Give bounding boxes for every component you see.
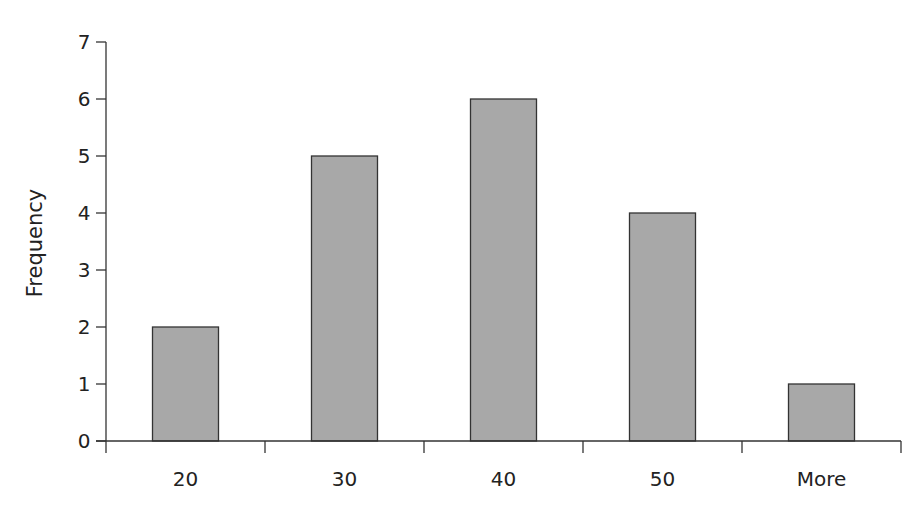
y-tick-label: 0 (78, 429, 91, 453)
bar-30 (312, 156, 378, 441)
x-axis: 20304050More (96, 441, 901, 491)
histogram-chart: 01234567 20304050More Frequency (0, 0, 923, 515)
y-tick-label: 1 (78, 372, 91, 396)
bar-more (789, 384, 855, 441)
y-tick-label: 5 (78, 144, 91, 168)
bar-50 (630, 213, 696, 441)
y-tick-label: 7 (78, 30, 91, 54)
y-tick-label: 2 (78, 315, 91, 339)
y-tick-label: 3 (78, 258, 91, 282)
y-axis: 01234567 (78, 30, 106, 453)
y-tick-label: 4 (78, 201, 91, 225)
x-tick-label: 30 (332, 467, 357, 491)
bars-group (153, 99, 855, 441)
bar-20 (153, 327, 219, 441)
y-tick-label: 6 (78, 87, 91, 111)
x-tick-label: More (797, 467, 847, 491)
x-tick-label: 50 (650, 467, 675, 491)
y-axis-title: Frequency (23, 189, 47, 298)
x-tick-label: 20 (173, 467, 198, 491)
x-tick-label: 40 (491, 467, 516, 491)
bar-40 (471, 99, 537, 441)
